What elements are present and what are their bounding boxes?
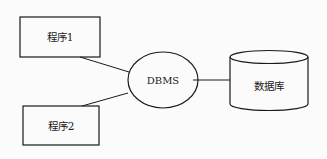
edge-program1-dbms bbox=[80, 57, 129, 72]
node-database: 数据库 bbox=[230, 51, 308, 111]
node-program1-label: 程序1 bbox=[47, 31, 74, 43]
node-program2: 程序2 bbox=[23, 106, 99, 145]
node-dbms: DBMS bbox=[128, 52, 198, 108]
diagram-canvas: 程序1 程序2 DBMS 数据库 bbox=[0, 0, 327, 159]
node-database-label: 数据库 bbox=[254, 80, 284, 92]
node-dbms-label: DBMS bbox=[147, 75, 180, 86]
node-program2-label: 程序2 bbox=[48, 120, 75, 132]
edge-program2-dbms bbox=[82, 93, 128, 106]
node-program1: 程序1 bbox=[20, 17, 100, 57]
